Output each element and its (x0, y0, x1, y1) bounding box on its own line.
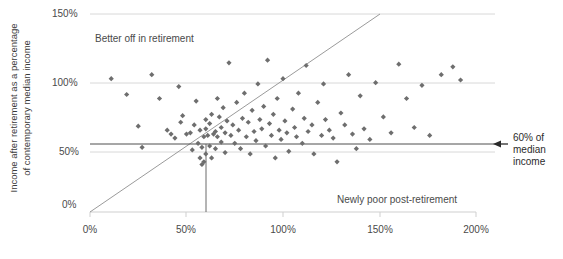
data-point (309, 122, 314, 127)
data-point (273, 155, 278, 160)
data-point (354, 146, 359, 151)
data-point (140, 145, 145, 150)
y-tick-50: 50% (59, 146, 79, 157)
data-point (388, 130, 393, 135)
data-point (458, 77, 463, 82)
data-point (109, 76, 114, 81)
data-point (176, 84, 181, 89)
data-point (244, 134, 249, 139)
data-point (197, 155, 202, 160)
data-point (342, 122, 347, 127)
data-point (327, 128, 332, 133)
data-point (180, 113, 185, 118)
y-tick-150: 150% (52, 8, 78, 19)
data-point (192, 122, 197, 127)
data-point (251, 129, 256, 134)
data-point (373, 80, 378, 85)
data-point (199, 145, 204, 150)
data-point (224, 118, 229, 123)
data-point (412, 125, 417, 130)
data-point (259, 126, 264, 131)
data-point (136, 124, 141, 129)
data-point (396, 62, 401, 67)
data-point (427, 133, 432, 138)
data-point (381, 114, 386, 119)
x-tick-150: 150% (350, 224, 410, 235)
x-tick-50: 50% (156, 224, 216, 235)
data-point (178, 120, 183, 125)
data-point (209, 155, 214, 160)
x-axis-line (90, 212, 476, 217)
data-point (236, 128, 241, 133)
x-tick-100: 100% (253, 224, 313, 235)
data-point (361, 126, 366, 131)
data-point (217, 114, 222, 119)
data-point (234, 100, 239, 105)
annotation-median-income-callout: 60% of median income (513, 132, 563, 168)
data-point (439, 72, 444, 77)
data-point (292, 125, 297, 130)
data-point (232, 141, 237, 146)
data-point (215, 96, 220, 101)
data-point (282, 118, 287, 123)
data-point (277, 128, 282, 133)
data-point (246, 120, 251, 125)
y-tick-0: 0% (62, 199, 76, 210)
x-tick-200: 200% (446, 224, 506, 235)
data-point (124, 92, 129, 97)
data-point (346, 72, 351, 77)
data-point (207, 121, 212, 126)
data-point (221, 105, 226, 110)
data-point (338, 110, 343, 115)
data-point (302, 116, 307, 121)
data-point (261, 104, 266, 109)
data-point (230, 122, 235, 127)
data-point (296, 91, 301, 96)
data-point (269, 133, 274, 138)
data-point (290, 106, 295, 111)
data-point (157, 96, 162, 101)
data-point (404, 96, 409, 101)
annotation-newly-poor: Newly poor post-retirement (337, 194, 457, 205)
data-point (275, 96, 280, 101)
data-point (271, 112, 276, 117)
data-point (209, 112, 214, 117)
data-point (223, 150, 228, 155)
annotation-better-off: Better off in retirement (95, 33, 194, 44)
data-point (315, 100, 320, 105)
data-point (238, 146, 243, 151)
data-point (294, 134, 299, 139)
data-point (286, 149, 291, 154)
data-point (215, 134, 220, 139)
data-point (255, 81, 260, 86)
data-point (203, 126, 208, 131)
data-point (350, 132, 355, 137)
data-point (305, 129, 310, 134)
data-point (242, 91, 247, 96)
data-point (197, 128, 202, 133)
data-point (228, 133, 233, 138)
data-point (331, 135, 336, 140)
data-point (172, 135, 177, 140)
data-point (219, 125, 224, 130)
chart-screenshot: Income after retirement as a percentage … (0, 0, 563, 259)
data-point (450, 64, 455, 69)
data-point (257, 117, 262, 122)
data-point (194, 99, 199, 104)
data-point (226, 60, 231, 65)
data-point (213, 146, 218, 151)
data-point (300, 141, 305, 146)
data-points-layer (109, 58, 464, 167)
data-point (267, 121, 272, 126)
data-point (321, 81, 326, 86)
data-point (280, 76, 285, 81)
data-point (334, 159, 339, 164)
data-point (168, 132, 173, 137)
data-point (358, 93, 363, 98)
data-point (223, 130, 228, 135)
data-point (203, 117, 208, 122)
data-point (323, 117, 328, 122)
scatter-plot-canvas (0, 0, 563, 259)
y-tick-100: 100% (52, 77, 78, 88)
data-point (149, 72, 154, 77)
